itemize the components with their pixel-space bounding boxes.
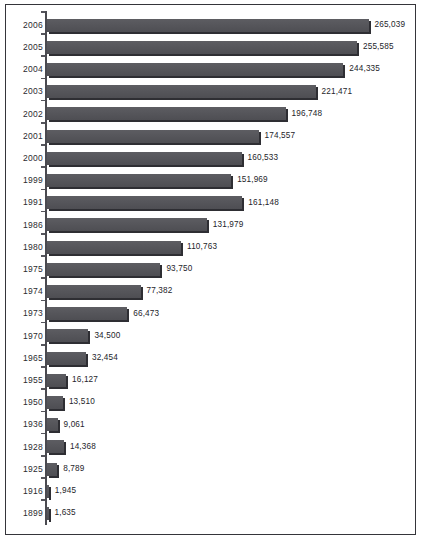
bar-2002[interactable] <box>47 107 286 120</box>
axis-tick <box>41 344 45 346</box>
bar-1986[interactable] <box>47 218 207 231</box>
axis-tick <box>41 55 45 57</box>
bar-row: 1986131,979 <box>6 214 415 236</box>
bar-value-label-1991: 161,148 <box>248 199 279 207</box>
bar-value-label-1970: 34,500 <box>94 332 120 340</box>
bar-1965[interactable] <box>47 352 86 365</box>
bar-row: 19161,945 <box>6 480 415 502</box>
bar-wrap <box>47 418 58 431</box>
axis-tick <box>41 233 45 235</box>
bar-value-label-1975: 93,750 <box>166 265 192 273</box>
bar-wrap <box>47 374 67 387</box>
category-label-1986: 1986 <box>12 221 43 230</box>
axis-tick <box>41 277 45 279</box>
bar-row: 2000160,533 <box>6 147 415 169</box>
axis-tick <box>41 455 45 457</box>
bar-2006[interactable] <box>47 19 369 32</box>
bar-1970[interactable] <box>47 329 89 342</box>
axis-tick <box>41 388 45 390</box>
bar-value-label-1928: 14,368 <box>70 443 96 451</box>
bar-value-label-2004: 244,335 <box>349 65 380 73</box>
category-label-1974: 1974 <box>12 287 43 296</box>
bar-wrap <box>47 241 182 254</box>
bar-wrap <box>47 130 259 143</box>
bar-wrap <box>47 263 161 276</box>
chart-frame: 2006265,0392005255,5852004244,3352003221… <box>5 4 416 535</box>
bar-1916[interactable] <box>47 485 49 498</box>
bar-wrap <box>47 507 49 520</box>
bar-1980[interactable] <box>47 241 182 254</box>
category-label-1999: 1999 <box>12 176 43 185</box>
bar-1973[interactable] <box>47 307 128 320</box>
plot-area: 2006265,0392005255,5852004244,3352003221… <box>6 5 415 534</box>
bar-row: 1991161,148 <box>6 192 415 214</box>
category-label-2006: 2006 <box>12 21 43 30</box>
bar-wrap <box>47 485 49 498</box>
bar-value-label-2006: 265,039 <box>375 21 406 29</box>
bar-row: 197366,473 <box>6 303 415 325</box>
category-label-2000: 2000 <box>12 154 43 163</box>
bar-value-label-2003: 221,471 <box>322 88 353 96</box>
bar-row: 2003221,471 <box>6 81 415 103</box>
bar-1975[interactable] <box>47 263 161 276</box>
axis-tick <box>41 33 45 35</box>
bar-wrap <box>47 41 358 54</box>
category-label-2001: 2001 <box>12 132 43 141</box>
bar-1899[interactable] <box>47 507 49 520</box>
bar-1991[interactable] <box>47 196 243 209</box>
bar-1999[interactable] <box>47 174 232 187</box>
category-label-1970: 1970 <box>12 332 43 341</box>
bar-2004[interactable] <box>47 63 344 76</box>
bar-wrap <box>47 396 63 409</box>
bar-wrap <box>47 152 242 165</box>
category-label-1899: 1899 <box>12 509 43 518</box>
category-label-1975: 1975 <box>12 265 43 274</box>
bar-wrap <box>47 463 58 476</box>
bar-row: 196532,454 <box>6 347 415 369</box>
bar-1936[interactable] <box>47 418 58 431</box>
bar-wrap <box>47 352 86 365</box>
bar-1925[interactable] <box>47 463 58 476</box>
bar-wrap <box>47 63 344 76</box>
axis-tick <box>41 300 45 302</box>
category-label-2005: 2005 <box>12 43 43 52</box>
axis-tick <box>41 78 45 80</box>
bar-value-label-1999: 151,969 <box>237 176 268 184</box>
category-label-1925: 1925 <box>12 465 43 474</box>
bar-1955[interactable] <box>47 374 67 387</box>
bar-1928[interactable] <box>47 440 64 453</box>
bar-value-label-1916: 1,945 <box>55 487 76 495</box>
category-label-2002: 2002 <box>12 110 43 119</box>
axis-tick <box>41 144 45 146</box>
category-label-1991: 1991 <box>12 198 43 207</box>
bar-row: 2001174,557 <box>6 125 415 147</box>
bar-row: 197477,382 <box>6 280 415 302</box>
bar-value-label-2002: 196,748 <box>292 110 323 118</box>
bar-wrap <box>47 85 316 98</box>
bar-2005[interactable] <box>47 41 358 54</box>
bar-2003[interactable] <box>47 85 316 98</box>
category-label-1965: 1965 <box>12 354 43 363</box>
axis-tick <box>41 100 45 102</box>
bar-wrap <box>47 196 243 209</box>
bar-1974[interactable] <box>47 285 141 298</box>
axis-tick <box>41 189 45 191</box>
bar-row: 2004244,335 <box>6 58 415 80</box>
category-label-2003: 2003 <box>12 87 43 96</box>
bar-row: 18991,635 <box>6 502 415 524</box>
axis-tick <box>41 411 45 413</box>
axis-tick <box>41 477 45 479</box>
axis-tick <box>41 211 45 213</box>
bar-wrap <box>47 107 286 120</box>
bar-wrap <box>47 440 64 453</box>
bar-row: 1999151,969 <box>6 169 415 191</box>
bar-value-label-1965: 32,454 <box>92 354 118 362</box>
category-label-1928: 1928 <box>12 443 43 452</box>
axis-tick <box>41 322 45 324</box>
bar-row: 195013,510 <box>6 391 415 413</box>
bar-row: 197593,750 <box>6 258 415 280</box>
bar-2000[interactable] <box>47 152 242 165</box>
axis-tick <box>41 11 45 13</box>
bar-2001[interactable] <box>47 130 259 143</box>
bar-1950[interactable] <box>47 396 63 409</box>
